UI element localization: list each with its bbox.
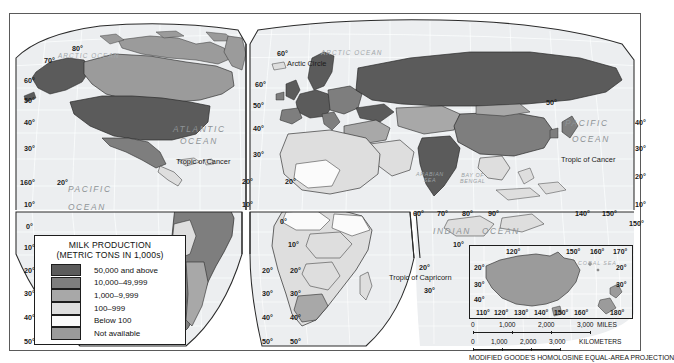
scale-miles-tick-0: 0 (471, 321, 475, 328)
scale-kilometers: 0 1,000 2,000 3,000 KILOMETERS (469, 339, 647, 354)
legend-entry-label: 1,000–9,999 (94, 291, 139, 300)
legend-entry: Not available (51, 327, 185, 340)
map-scale-group: 0 1,000 2,000 3,000 MILES 0 1,000 2,000 (469, 322, 647, 363)
legend-swatch (51, 277, 81, 290)
scale-km-tick-0: 0 (471, 338, 475, 345)
legend-entry-label: 10,000–49,999 (94, 278, 147, 287)
scale-miles-bar (473, 331, 591, 334)
map-frame: 80°70°60°50°40°30°160°20°10°0°10°20°30°4… (9, 13, 641, 351)
legend-title-line1: MILK PRODUCTION (35, 240, 185, 250)
legend-entry-label: 100–999 (94, 304, 125, 313)
projection-note: MODIFIED GOODE'S HOMOLOSINE EQUAL-AREA P… (469, 354, 674, 361)
scale-km-bar (473, 348, 561, 351)
legend-swatch (51, 264, 81, 277)
australia-inset-graphic (470, 246, 633, 319)
legend-entry: 10,000–49,999 (51, 277, 185, 290)
scale-miles-unit: MILES (597, 321, 617, 328)
australia-inset-map: 120°150°160°170°110°120°130°140°150°160°… (469, 245, 633, 319)
legend-title: MILK PRODUCTION (METRIC TONS IN 1,000s) (35, 236, 185, 261)
scale-km-unit: KILOMETERS (579, 338, 622, 345)
scale-miles-tick-2: 2,000 (538, 321, 555, 328)
scale-miles: 0 1,000 2,000 3,000 MILES (469, 322, 647, 337)
legend-entry-label: 50,000 and above (94, 266, 158, 275)
legend-entries: 50,000 and above10,000–49,9991,000–9,999… (35, 264, 185, 340)
legend-entry: 1,000–9,999 (51, 289, 185, 302)
legend-swatch (51, 302, 81, 315)
legend-title-line2: (METRIC TONS IN 1,000s) (35, 250, 185, 260)
legend-entry-label: Below 100 (94, 316, 131, 325)
legend-swatch (51, 289, 81, 302)
legend-entry: 50,000 and above (51, 264, 185, 277)
map-legend: MILK PRODUCTION (METRIC TONS IN 1,000s) … (34, 235, 186, 345)
scale-km-tick-2: 2,000 (520, 338, 537, 345)
legend-swatch (51, 315, 81, 328)
legend-entry-label: Not available (94, 329, 140, 338)
legend-entry: Below 100 (51, 315, 185, 328)
scale-miles-tick-3: 3,000 (577, 321, 594, 328)
legend-entry: 100–999 (51, 302, 185, 315)
map-stage: 80°70°60°50°40°30°160°20°10°0°10°20°30°4… (10, 14, 642, 352)
scale-km-tick-3: 3,000 (549, 338, 566, 345)
legend-swatch (51, 327, 81, 340)
scale-km-tick-1: 1,000 (491, 338, 508, 345)
scale-miles-tick-1: 1,000 (499, 321, 516, 328)
